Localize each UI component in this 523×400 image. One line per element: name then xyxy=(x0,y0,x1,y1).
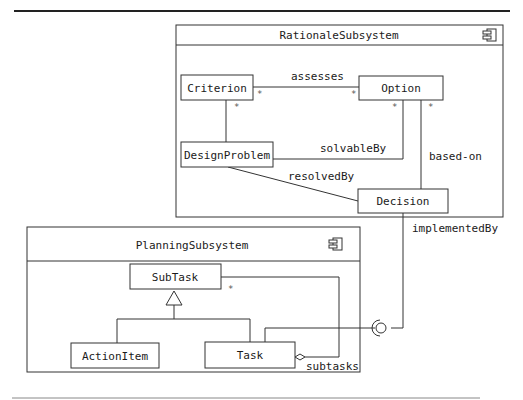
class-task-name: Task xyxy=(237,349,264,362)
class-actionitem-name: ActionItem xyxy=(82,350,149,363)
class-subtask[interactable]: SubTask xyxy=(130,264,221,289)
class-option-name: Option xyxy=(381,82,421,95)
uml-diagram: RationaleSubsystem assesses * * * solvab… xyxy=(0,0,523,400)
mult-option-solvableby: * xyxy=(392,102,397,112)
rationale-subsystem: RationaleSubsystem xyxy=(176,25,503,217)
label-assesses: assesses xyxy=(291,70,344,83)
class-subtask-name: SubTask xyxy=(152,271,199,284)
assoc-implementedby xyxy=(391,213,403,328)
rationale-subsystem-title: RationaleSubsystem xyxy=(279,29,399,42)
planning-subsystem-title: PlanningSubsystem xyxy=(136,239,249,252)
class-decision-name: Decision xyxy=(377,195,430,208)
label-subtasks: subtasks xyxy=(306,360,359,373)
class-criterion[interactable]: Criterion xyxy=(181,75,253,100)
mult-criterion-designproblem: * xyxy=(234,102,239,112)
interface-ball-icon xyxy=(376,323,386,333)
class-designproblem-name: DesignProblem xyxy=(184,149,270,162)
mult-subtask: * xyxy=(228,284,233,294)
class-decision[interactable]: Decision xyxy=(358,189,448,213)
mult-option-based-on: * xyxy=(428,102,433,112)
label-implementedby: implementedBy xyxy=(412,222,498,235)
class-actionitem[interactable]: ActionItem xyxy=(71,343,159,368)
class-criterion-name: Criterion xyxy=(187,82,247,95)
class-option[interactable]: Option xyxy=(359,76,443,100)
mult-option-assesses: * xyxy=(351,89,356,99)
label-based-on: based-on xyxy=(429,150,482,163)
label-solvableby: solvableBy xyxy=(320,142,387,155)
class-task[interactable]: Task xyxy=(205,342,295,368)
mult-criterion-assesses: * xyxy=(257,89,262,99)
label-resolvedby: resolvedBy xyxy=(288,170,355,183)
class-designproblem[interactable]: DesignProblem xyxy=(181,142,273,167)
